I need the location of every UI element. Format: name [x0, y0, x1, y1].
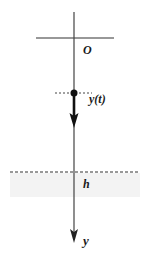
height-label: h: [83, 177, 90, 191]
falling-object-diagram: O y(t) h y: [0, 0, 150, 257]
position-label: y(t): [87, 92, 106, 106]
ground-shade: [10, 173, 140, 197]
origin-label: O: [83, 43, 92, 57]
y-axis-label: y: [81, 233, 89, 248]
